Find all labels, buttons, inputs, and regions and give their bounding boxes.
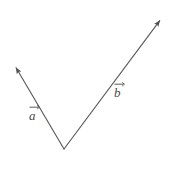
vector-a-line — [16, 68, 64, 149]
vector-b-label: b — [114, 81, 121, 99]
vector-arrow-accent-b — [114, 81, 121, 86]
vector-b-line — [64, 21, 160, 149]
vector-b-label-text: b — [114, 86, 121, 99]
vector-diagram: a b — [0, 0, 172, 186]
vector-arrow-accent-a — [29, 104, 36, 109]
vector-a-label: a — [29, 104, 36, 122]
vector-a-label-text: a — [29, 109, 36, 122]
vector-canvas — [0, 0, 172, 186]
